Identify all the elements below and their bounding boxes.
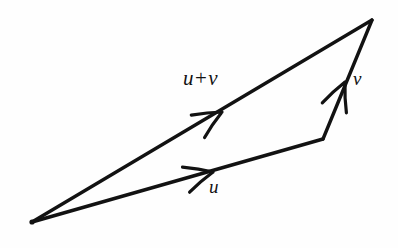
origin-vertex: [29, 219, 34, 224]
vector-sum-label-v: v: [208, 66, 218, 90]
vector-sum-label-u: u: [183, 66, 194, 90]
vector-sum-label: u+v: [183, 68, 218, 89]
vector-diagram-figure: u+v u v: [0, 0, 398, 248]
vector-diagram-canvas: [0, 0, 398, 248]
vector-u-label: u: [209, 177, 219, 196]
vector-v-label: v: [353, 69, 361, 88]
vector-sum-label-operator: +: [194, 66, 208, 90]
